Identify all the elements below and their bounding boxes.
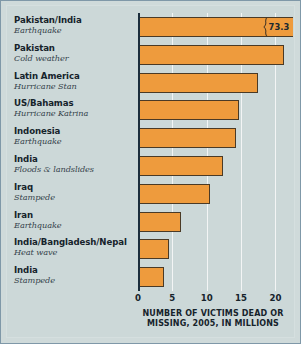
- x-tick-label-15: 15: [235, 293, 247, 303]
- bar: [138, 128, 236, 148]
- category-label: IraqStampede: [14, 183, 132, 202]
- plot-area: 73.3: [138, 13, 296, 291]
- category-cause: Heat wave: [14, 248, 132, 257]
- category-cause: Hurricane Stan: [14, 82, 132, 91]
- category-label: US/BahamasHurricane Katrina: [14, 99, 132, 118]
- x-tick-label-10: 10: [201, 293, 213, 303]
- bar: [138, 184, 210, 204]
- bar: [138, 100, 239, 120]
- x-tick-label-5: 5: [169, 293, 175, 303]
- bar: [138, 45, 284, 65]
- category-cause: Stampede: [14, 276, 132, 285]
- bar: [138, 156, 223, 176]
- category-cause: Floods & landslides: [14, 165, 132, 174]
- category-cause: Cold weather: [14, 54, 132, 63]
- category-label: Latin AmericaHurricane Stan: [14, 72, 132, 91]
- x-axis-tick-labels: 05101520: [138, 293, 296, 305]
- category-place: India: [14, 266, 132, 275]
- category-place: India/Bangladesh/Nepal: [14, 238, 132, 247]
- category-label: India/Bangladesh/NepalHeat wave: [14, 238, 132, 257]
- category-place: Pakistan/India: [14, 16, 132, 25]
- category-label: IndonesiaEarthquake: [14, 127, 132, 146]
- chart-panel: Pakistan/IndiaEarthquakePakistanCold wea…: [0, 0, 301, 344]
- bar: [138, 267, 164, 287]
- category-cause: Hurricane Katrina: [14, 109, 132, 118]
- category-label: PakistanCold weather: [14, 44, 132, 63]
- category-cause: Earthquake: [14, 221, 132, 230]
- x-tick-label-0: 0: [135, 293, 141, 303]
- caption-line-1: NUMBER OF VICTIMS DEAD OR: [129, 309, 297, 319]
- category-label: IndiaStampede: [14, 266, 132, 285]
- category-cause: Stampede: [14, 193, 132, 202]
- category-place: Iraq: [14, 183, 132, 192]
- category-cause: Earthquake: [14, 137, 132, 146]
- category-place: India: [14, 155, 132, 164]
- bar: [138, 73, 258, 93]
- bar: [138, 239, 169, 259]
- caption-line-2: MISSING, 2005, IN MILLIONS: [129, 319, 297, 329]
- category-label: IndiaFloods & landslides: [14, 155, 132, 174]
- category-cause: Earthquake: [14, 26, 132, 35]
- x-tick-label-20: 20: [269, 293, 281, 303]
- x-axis-caption: NUMBER OF VICTIMS DEAD OR MISSING, 2005,…: [129, 309, 297, 329]
- category-label: IranEarthquake: [14, 211, 132, 230]
- value-axis-line: [138, 13, 140, 291]
- category-place: Latin America: [14, 72, 132, 81]
- category-place: US/Bahamas: [14, 99, 132, 108]
- category-place: Indonesia: [14, 127, 132, 136]
- category-place: Iran: [14, 211, 132, 220]
- category-label: Pakistan/IndiaEarthquake: [14, 16, 132, 35]
- bar: 73.3: [138, 17, 293, 37]
- category-place: Pakistan: [14, 44, 132, 53]
- bar-value-label: 73.3: [269, 22, 290, 32]
- bar: [138, 212, 181, 232]
